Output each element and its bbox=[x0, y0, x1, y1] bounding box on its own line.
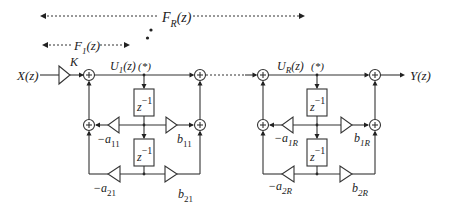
coef-b1r-sub: 1R bbox=[360, 138, 371, 148]
arrow-right-icon bbox=[299, 13, 305, 19]
coef-b21-sub: 21 bbox=[184, 194, 193, 204]
delay-exp: −1 bbox=[142, 145, 153, 156]
coef-b1r-amplifier bbox=[341, 117, 352, 133]
gain-label: K bbox=[69, 55, 79, 69]
svg-text:b1R: b1R bbox=[354, 131, 371, 148]
range-fr-sub: R bbox=[170, 18, 177, 29]
delay-exp: −1 bbox=[142, 95, 153, 106]
svg-text:U1(z): U1(z) bbox=[110, 59, 136, 75]
coef-a1r-name: −a bbox=[274, 131, 288, 145]
delay-exp: −1 bbox=[315, 145, 326, 156]
ellipsis-dots bbox=[146, 28, 153, 39]
svg-text:UR(z): UR(z) bbox=[277, 59, 304, 75]
coef-a2r-amplifier bbox=[282, 166, 294, 182]
svg-text:F1(z): F1(z) bbox=[73, 38, 100, 56]
svg-text:−a21: −a21 bbox=[93, 181, 116, 198]
state-marker: (*) bbox=[311, 60, 324, 73]
coef-b21-amplifier bbox=[165, 166, 177, 182]
state-ur-arg: (z) bbox=[291, 59, 304, 73]
coef-a2r-name: −a bbox=[268, 179, 282, 193]
arrow-left-icon bbox=[42, 42, 48, 48]
range-fr-name: F bbox=[161, 10, 171, 25]
delay-exp: −1 bbox=[315, 95, 326, 106]
range-f1-arg: (z) bbox=[86, 38, 100, 53]
svg-text:FR(z): FR(z) bbox=[161, 10, 192, 29]
arrow-right-icon bbox=[124, 42, 130, 48]
coef-b11-sub: 11 bbox=[183, 139, 192, 149]
svg-text:−a11: −a11 bbox=[97, 132, 120, 149]
svg-text:−a1R: −a1R bbox=[274, 131, 299, 148]
coef-a21-name: −a bbox=[93, 181, 107, 195]
section-R: UR(z) (*) Y(z) z−1 z−1 bbox=[258, 59, 431, 198]
state-u1-arg: (z) bbox=[123, 59, 136, 73]
coef-b2r-sub: 2R bbox=[358, 188, 369, 198]
svg-text:−a2R: −a2R bbox=[268, 179, 293, 196]
coef-a1r-sub: 1R bbox=[288, 138, 299, 148]
output-label: Y(z) bbox=[410, 68, 431, 83]
coef-a2r-sub: 2R bbox=[282, 186, 293, 196]
coef-a11-amplifier bbox=[108, 117, 119, 133]
gain-k-amplifier bbox=[59, 66, 70, 84]
coef-a11-name: −a bbox=[97, 132, 111, 146]
range-FR: FR(z) bbox=[40, 10, 305, 29]
svg-text:b11: b11 bbox=[177, 132, 192, 149]
svg-text:b21: b21 bbox=[178, 187, 193, 204]
cascade-filter-diagram: FR(z) F1(z) X(z) K U1(z) (*) z−1 bbox=[0, 0, 450, 210]
svg-text:b2R: b2R bbox=[352, 181, 369, 198]
arrow-left-icon bbox=[40, 13, 46, 19]
range-F1: F1(z) bbox=[42, 38, 130, 56]
coef-a21-sub: 21 bbox=[107, 188, 116, 198]
section-1: U1(z) (*) z−1 z−1 −a11 b11 bbox=[84, 59, 206, 204]
coef-b11-amplifier bbox=[166, 117, 177, 133]
coef-b2r-amplifier bbox=[340, 166, 352, 182]
coef-a21-amplifier bbox=[108, 166, 120, 182]
input-label: X(z) bbox=[16, 68, 39, 83]
range-fr-arg: (z) bbox=[177, 10, 192, 26]
coef-a11-sub: 11 bbox=[111, 139, 120, 149]
state-marker: (*) bbox=[138, 60, 151, 73]
